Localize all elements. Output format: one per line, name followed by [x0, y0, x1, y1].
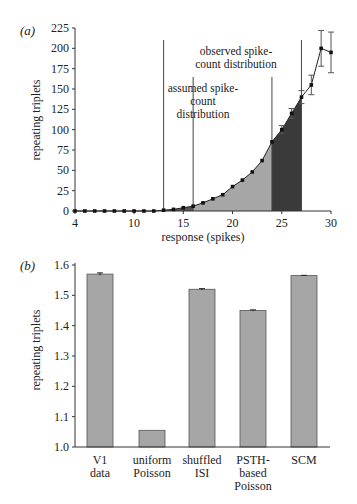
panel-b-label: (b)	[20, 258, 35, 273]
data-point	[270, 140, 274, 144]
data-point	[250, 170, 254, 174]
data-point	[83, 209, 87, 213]
y-tick-label: 1.0	[54, 440, 69, 454]
y-tick-label: 200	[51, 41, 69, 55]
data-point	[73, 209, 77, 213]
y-tick-label: 1.4	[54, 319, 69, 333]
category-label: Poisson	[133, 466, 170, 480]
x-tick-label: 4	[72, 216, 78, 230]
y-tick-label: 0	[63, 204, 69, 218]
data-point	[132, 209, 136, 213]
data-point	[221, 193, 225, 197]
data-point	[182, 206, 186, 210]
data-point	[329, 51, 333, 55]
y-tick-label: 1.1	[54, 410, 69, 424]
figure: (a) repeating triplets response (spikes)…	[0, 0, 357, 504]
x-tick-label: 15	[177, 216, 189, 230]
data-point	[172, 208, 176, 212]
y-tick-label: 1.5	[54, 288, 69, 302]
category-label: ISI	[195, 466, 210, 480]
bars	[87, 273, 317, 447]
y-tick-label: 125	[51, 102, 69, 116]
bar	[87, 274, 113, 447]
bar	[139, 430, 165, 447]
category-label: shuffled	[182, 453, 221, 467]
data-point	[300, 95, 304, 99]
category-label: V1	[93, 453, 108, 467]
x-tick-label: 20	[227, 216, 239, 230]
data-point	[152, 209, 156, 213]
data-point	[211, 197, 215, 201]
category-label: SCM	[291, 453, 317, 467]
y-tick-label: 25	[57, 184, 69, 198]
bar	[189, 289, 215, 447]
category-labels: V1datauniformPoissonshuffledISIPSTH-base…	[90, 453, 317, 493]
annotation-assumed-line2: count	[190, 95, 216, 107]
y-tick-label: 50	[57, 163, 69, 177]
category-label: uniform	[133, 453, 172, 467]
panel-a-y-axis-label: repeating triplets	[29, 79, 43, 160]
data-point	[191, 204, 195, 208]
category-label: Poisson	[234, 479, 271, 493]
panel-b-bar-chart: (b) repeating triplets 1.01.11.21.31.41.…	[20, 258, 330, 493]
category-label: PSTH-	[236, 453, 269, 467]
annotation-observed-line1: observed spike-	[200, 45, 273, 58]
bar	[291, 276, 317, 447]
data-point	[103, 209, 107, 213]
data-point	[122, 209, 126, 213]
x-tick-label: 25	[276, 216, 288, 230]
data-point	[280, 128, 284, 132]
y-tick-label: 1.2	[54, 379, 69, 393]
shaded-region	[193, 142, 272, 211]
data-point	[241, 178, 245, 182]
y-tick-label: 1.6	[54, 258, 69, 272]
data-point	[93, 209, 97, 213]
data-point	[231, 185, 235, 189]
panel-b-y-axis-label: repeating triplets	[29, 309, 43, 390]
category-label: data	[90, 466, 111, 480]
y-tick-label: 150	[51, 82, 69, 96]
y-tick-label: 225	[51, 21, 69, 35]
category-label: based	[239, 466, 266, 480]
annotation-assumed-line3: distribution	[176, 108, 229, 120]
panel-a-x-axis-label: response (spikes)	[162, 230, 245, 244]
y-tick-label: 75	[57, 143, 69, 157]
annotation-observed-line2: count distribution	[195, 58, 277, 70]
bar	[240, 311, 266, 448]
x-tick-label: 10	[128, 216, 140, 230]
data-point	[113, 209, 117, 213]
y-tick-label: 175	[51, 62, 69, 76]
data-point	[201, 201, 205, 205]
data-point	[142, 209, 146, 213]
data-point	[319, 47, 323, 51]
y-tick-label: 1.3	[54, 349, 69, 363]
x-tick-label: 30	[325, 216, 337, 230]
data-point	[310, 83, 314, 87]
y-tick-label: 100	[51, 123, 69, 137]
data-point	[162, 208, 166, 212]
shaded-region	[272, 97, 302, 211]
annotation-assumed-line1: assumed spike-	[168, 82, 239, 95]
panel-a-line-chart: (a) repeating triplets response (spikes)…	[20, 21, 337, 244]
data-point	[260, 159, 264, 163]
panel-a-label: (a)	[20, 23, 35, 38]
data-point	[290, 112, 294, 116]
